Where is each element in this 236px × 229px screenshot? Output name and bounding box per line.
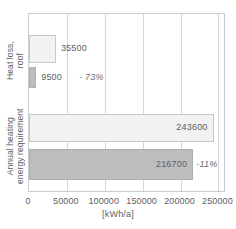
bar-delta-label: -11% (196, 159, 217, 169)
x-tick-label: 0 (25, 196, 30, 206)
x-axis-title: [kWh/a] (0, 209, 236, 219)
gridline (218, 14, 219, 191)
bar-delta-label: - 73% (79, 72, 104, 82)
bar-value-label: 9500 (41, 72, 62, 82)
y-category-label: Annual heatingenergy requirement (6, 108, 25, 184)
x-tick-label: 50000 (53, 196, 79, 206)
bar-chart: 355009500- 73%243600216700-11% 050000100… (0, 0, 236, 229)
bar-value-label: 216700 (156, 159, 187, 169)
x-tick-label: 250000 (202, 196, 233, 206)
x-tick-label: 150000 (126, 196, 157, 206)
bar-value-label: 35500 (61, 43, 87, 53)
bar (29, 35, 56, 63)
bar (29, 67, 36, 88)
y-category-label-line: energy requirement (16, 108, 26, 184)
x-tick-label: 200000 (164, 196, 195, 206)
y-category-label-line: roof (16, 41, 26, 80)
y-category-label: Heat loss,roof (6, 41, 25, 80)
bar-value-label: 243600 (176, 122, 207, 132)
x-tick-label: 100000 (88, 196, 119, 206)
